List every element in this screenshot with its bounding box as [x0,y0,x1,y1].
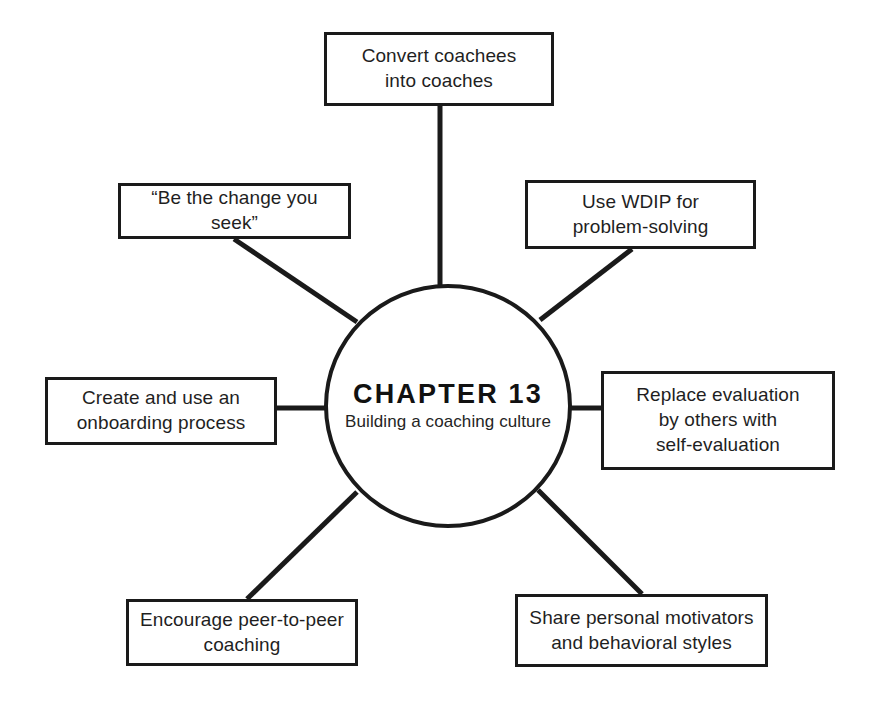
node-label: Share personal motivators and behavioral… [521,606,761,655]
node-peer-to-peer-coaching: Encourage peer-to-peer coaching [126,599,358,666]
mind-map-diagram: CHAPTER 13 Building a coaching culture C… [0,0,873,712]
node-label: Use WDIP for problem-solving [565,190,717,239]
center-hub: CHAPTER 13 Building a coaching culture [324,284,572,528]
node-label: Convert coachees into coaches [354,44,525,93]
node-use-wdip: Use WDIP for problem-solving [525,180,756,249]
node-convert-coachees: Convert coachees into coaches [324,32,554,106]
node-self-evaluation: Replace evaluation by others with self-e… [601,371,835,470]
node-personal-motivators: Share personal motivators and behavioral… [515,594,768,667]
center-subtitle: Building a coaching culture [345,412,551,432]
connector-upper-left [234,239,357,322]
node-onboarding-process: Create and use an onboarding process [45,377,277,445]
connector-lower-left [247,492,357,599]
node-label: Create and use an onboarding process [69,386,254,435]
node-label: “Be the change you seek” [121,186,348,235]
connector-upper-right [540,249,632,320]
node-be-the-change: “Be the change you seek” [118,183,351,239]
node-label: Encourage peer-to-peer coaching [132,608,352,657]
node-label: Replace evaluation by others with self-e… [628,383,807,457]
connector-lower-right [538,490,642,594]
center-title: CHAPTER 13 [353,380,543,410]
